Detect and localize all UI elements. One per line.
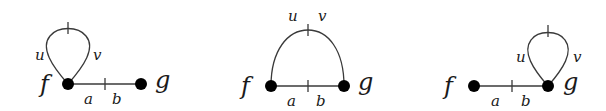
vertex-g	[542, 80, 554, 92]
label-f: f	[239, 72, 254, 100]
label-g: g	[358, 68, 373, 96]
vertex-g	[338, 80, 350, 92]
vertex-f	[468, 80, 480, 92]
vertex-f	[265, 80, 277, 92]
diagram-left: u v f g a b	[35, 22, 170, 108]
ribbon-graph-diagrams: u v f g a b u v f g a b u v f g a b	[0, 0, 606, 111]
label-v: v	[93, 46, 102, 64]
vertex-g	[135, 78, 147, 90]
diagram-right: u v f g a b	[442, 25, 582, 110]
label-u: u	[288, 7, 298, 25]
label-v: v	[573, 48, 582, 66]
label-u: u	[516, 48, 526, 66]
diagram-middle: u v f g a b	[239, 7, 373, 110]
loop-edge-uv	[46, 29, 89, 85]
arc-edge-uv	[271, 30, 344, 86]
label-a: a	[287, 92, 296, 110]
vertex-f	[62, 78, 74, 90]
label-v: v	[318, 7, 327, 25]
label-f: f	[442, 72, 457, 100]
label-u: u	[35, 46, 45, 64]
label-b: b	[316, 92, 326, 110]
label-g: g	[155, 66, 170, 94]
label-b: b	[112, 90, 122, 108]
label-f: f	[38, 70, 53, 98]
label-a: a	[84, 90, 93, 108]
label-b: b	[521, 92, 531, 110]
label-a: a	[491, 92, 500, 110]
label-g: g	[563, 68, 578, 96]
